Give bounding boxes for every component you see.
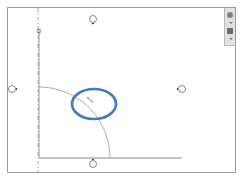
navigation-bar[interactable] — [224, 8, 235, 46]
chevron-down-icon[interactable] — [229, 38, 233, 40]
chevron-down-icon[interactable] — [229, 22, 233, 24]
zoom-button[interactable] — [226, 27, 235, 36]
steering-wheel-icon — [227, 12, 233, 18]
zoom-icon — [227, 28, 233, 34]
elevation-marker-right[interactable] — [177, 86, 186, 93]
highlight-ellipse — [72, 89, 116, 119]
elevation-marker-bottom[interactable] — [90, 159, 97, 168]
elevation-marker-left[interactable] — [9, 86, 18, 93]
floor-plan-drawing[interactable] — [0, 0, 242, 181]
drawing-canvas[interactable]: 90.00° — [0, 0, 242, 181]
elevation-marker-top[interactable] — [90, 16, 97, 25]
steering-wheel-button[interactable] — [226, 11, 235, 20]
